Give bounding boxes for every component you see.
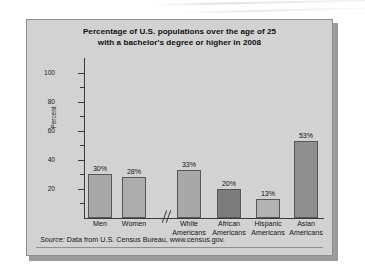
x-label-women: Women xyxy=(106,220,162,229)
y-minor-tick-50 xyxy=(58,145,84,146)
chart-figure-panel: Percentage of U.S. populations over the … xyxy=(26,19,333,256)
x-label-line: Americans xyxy=(278,229,334,238)
y-tick-label: 100 xyxy=(44,69,55,76)
chart-title-line-2: with a bachelor's degree or higher in 20… xyxy=(27,38,332,49)
y-tick-100: 100 xyxy=(58,73,84,74)
y-axis-title: Percent xyxy=(50,106,57,128)
y-tick-40: 40 xyxy=(58,160,84,161)
x-label-asian-americans: AsianAmericans xyxy=(278,220,334,239)
bar-value-label: 33% xyxy=(182,161,196,169)
bar-value-label: 20% xyxy=(222,180,236,188)
source-text: Data from U.S. Census Bureau, www.census… xyxy=(65,235,225,244)
y-tick-label: 20 xyxy=(48,185,55,192)
y-minor-tick-90 xyxy=(58,87,84,88)
bar-value-label: 13% xyxy=(261,190,275,198)
x-label-line: Asian xyxy=(278,220,334,229)
bar-value-label: 53% xyxy=(299,132,313,140)
y-minor-tick-70 xyxy=(58,116,84,117)
bar-series: 30%28%33%20%13%53% xyxy=(84,58,324,218)
bar-white-americans: 33% xyxy=(177,170,201,218)
y-minor-tick-10 xyxy=(58,203,84,204)
bar-african-americans: 20% xyxy=(217,189,241,218)
x-axis-line xyxy=(84,218,324,219)
x-label-line: Women xyxy=(106,220,162,229)
bar-women: 28% xyxy=(122,177,146,218)
chart-title-line-1: Percentage of U.S. populations over the … xyxy=(27,27,332,38)
y-tick-20: 20 xyxy=(58,189,84,190)
bar-asian-americans: 53% xyxy=(294,141,318,218)
scan-artifact-line xyxy=(150,0,365,6)
y-tick-label: 80 xyxy=(48,98,55,105)
bar-men: 30% xyxy=(88,174,112,218)
y-tick-80: 80 xyxy=(58,102,84,103)
scan-artifact-line-secondary xyxy=(175,7,365,14)
y-minor-tick-30 xyxy=(58,174,84,175)
y-tick-label: 60 xyxy=(48,127,55,134)
chart-title: Percentage of U.S. populations over the … xyxy=(27,27,332,48)
bar-value-label: 30% xyxy=(93,165,107,173)
y-tick-60: 60 xyxy=(58,131,84,132)
bar-value-label: 28% xyxy=(127,168,141,176)
source-label: Source: xyxy=(40,235,65,244)
plot-area: Percent 20406080100 30%28%33%20%13%53% M… xyxy=(58,58,324,224)
bar-hispanic-americans: 13% xyxy=(256,199,280,218)
source-note: Source: Data from U.S. Census Bureau, ww… xyxy=(40,235,225,244)
y-tick-label: 40 xyxy=(48,156,55,163)
footer-rule xyxy=(36,247,323,248)
